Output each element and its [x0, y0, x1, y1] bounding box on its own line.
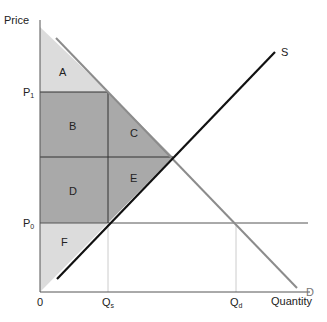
- price-control-diagram: Price Quantity 0 P1 P0 Qs Qd S D A B C D…: [0, 0, 327, 322]
- qs-label: Qs: [102, 296, 115, 309]
- region-a-label: A: [59, 66, 67, 78]
- region-f-fill: [40, 223, 108, 292]
- region-f-label: F: [61, 236, 68, 248]
- y-axis-label: Price: [4, 14, 29, 26]
- demand-label: D: [306, 286, 314, 298]
- origin-label: 0: [37, 296, 43, 308]
- qd-label: Qd: [230, 296, 243, 309]
- region-e-label: E: [130, 172, 137, 184]
- region-c-label: C: [130, 127, 138, 139]
- region-d-label: D: [69, 185, 77, 197]
- p1-label: P1: [23, 86, 34, 99]
- supply-label: S: [281, 46, 288, 58]
- p0-label: P0: [23, 217, 34, 230]
- region-b-label: B: [69, 120, 76, 132]
